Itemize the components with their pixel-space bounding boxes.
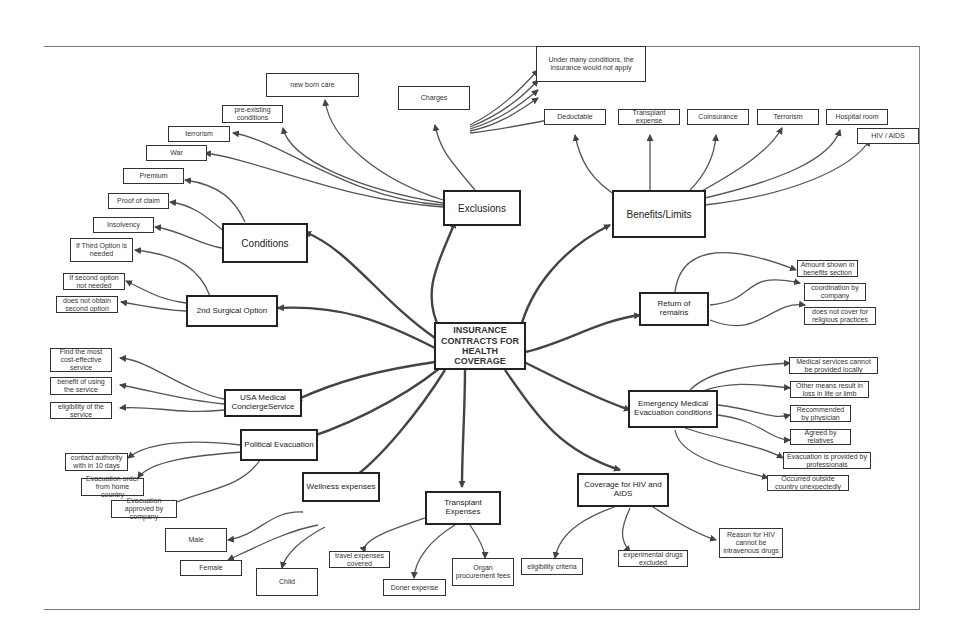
leaf-second-option-not-needed[interactable]: If second option not needed <box>63 273 125 290</box>
leaf-recommended-physician[interactable]: Recommended by physician <box>790 405 851 422</box>
leaf-evacuation-approved[interactable]: Evacuation approved by company <box>111 500 177 518</box>
leaf-coinsurance[interactable]: Coinsurance <box>687 109 749 125</box>
hub-exclusions[interactable]: Exclusions <box>443 190 521 226</box>
leaf-agreed-relatives[interactable]: Agreed by relatives <box>790 429 851 445</box>
leaf-transplant-expense[interactable]: Transplant expense <box>618 109 680 125</box>
leaf-war[interactable]: War <box>146 145 207 161</box>
leaf-evacuation-order[interactable]: Evacuation order from home country <box>81 478 144 496</box>
leaf-pre-existing-conditions[interactable]: pre-existing conditions <box>222 105 283 123</box>
hub-conditions[interactable]: Conditions <box>222 223 308 263</box>
leaf-new-born-care[interactable]: new born care <box>266 73 359 97</box>
leaf-religious-practices[interactable]: does not cover for religious practices <box>804 307 876 325</box>
leaf-hiv-aids[interactable]: HIV / AIDS <box>857 128 919 144</box>
leaf-other-means[interactable]: Other means result in loss in life or li… <box>790 381 869 398</box>
hub-usa-medical-concierge[interactable]: USA Medical ConciergeService <box>224 389 302 417</box>
hub-transplant-expenses[interactable]: Transplant Expenses <box>425 491 501 525</box>
leaf-child[interactable]: Child <box>256 568 318 596</box>
leaf-doner-expense[interactable]: Doner expense <box>383 579 446 596</box>
hub-return-of-remains[interactable]: Return of remains <box>639 292 709 326</box>
leaf-organ-procurement[interactable]: Organ procurement fees <box>452 558 514 586</box>
leaf-third-option-needed[interactable]: If Third Option is needed <box>70 238 133 262</box>
leaf-amount-shown[interactable]: Amount shown in benefits section <box>797 260 858 277</box>
leaf-male[interactable]: Male <box>165 528 227 552</box>
leaf-insolvency[interactable]: Insolvency <box>93 217 154 233</box>
leaf-terrorism-exclusion[interactable]: terrorism <box>168 126 230 142</box>
leaf-cost-effective-service[interactable]: Find the most cost-effective service <box>50 348 112 372</box>
leaf-eligibility-of-service[interactable]: eligibility of the service <box>50 402 112 419</box>
hub-coverage-hiv-aids[interactable]: Coverage for HIV and AIDS <box>577 473 669 507</box>
leaf-deductable[interactable]: Deductable <box>544 109 606 125</box>
leaf-occurred-outside[interactable]: Occurred outside country unexpectedly <box>767 475 849 491</box>
leaf-premium[interactable]: Premium <box>123 168 184 184</box>
leaf-no-second-option[interactable]: does not obtain second option <box>56 296 118 313</box>
hub-political-evacuation[interactable]: Political Evacuation <box>240 429 318 461</box>
leaf-travel-expenses[interactable]: travel expenses covered <box>329 551 390 568</box>
leaf-reason-hiv[interactable]: Reason for HIV cannot be intravenous dru… <box>719 528 783 558</box>
leaf-medical-services-local[interactable]: Medical services cannot be provided loca… <box>789 357 878 374</box>
leaf-contact-authority[interactable]: contact authority with in 10 days <box>65 453 128 471</box>
root-node[interactable]: INSURANCE CONTRACTS FOR HEALTH COVERAGE <box>434 322 526 370</box>
leaf-eligibility-criteria[interactable]: eligibility criteria <box>521 558 583 575</box>
leaf-experimental-drugs[interactable]: experimental drugs excluded <box>618 550 688 567</box>
leaf-charges[interactable]: Charges <box>398 86 470 110</box>
leaf-coordination-by-company[interactable]: coordination by company <box>804 283 866 301</box>
hub-emergency-medical-evacuation[interactable]: Emergency Medical Evacuation conditions <box>628 390 718 428</box>
leaf-female[interactable]: Female <box>180 560 242 576</box>
hub-wellness-expenses[interactable]: Wellness expenses <box>302 472 380 502</box>
leaf-benefit-of-using[interactable]: benefit of using the service <box>50 377 112 395</box>
leaf-insurance-not-apply[interactable]: Under many conditions, the insurance wou… <box>536 46 646 82</box>
leaf-terrorism-benefit[interactable]: Terrorism <box>757 109 819 125</box>
leaf-proof-of-claim[interactable]: Proof of claim <box>108 193 169 209</box>
hub-benefits-limits[interactable]: Benefits/Limits <box>612 190 706 238</box>
leaf-hospital-room[interactable]: Hospital room <box>826 109 888 125</box>
leaf-evacuation-professionals[interactable]: Evacuation is provided by professionals <box>783 452 871 469</box>
hub-second-surgical-option[interactable]: 2nd Surgical Option <box>186 295 278 327</box>
